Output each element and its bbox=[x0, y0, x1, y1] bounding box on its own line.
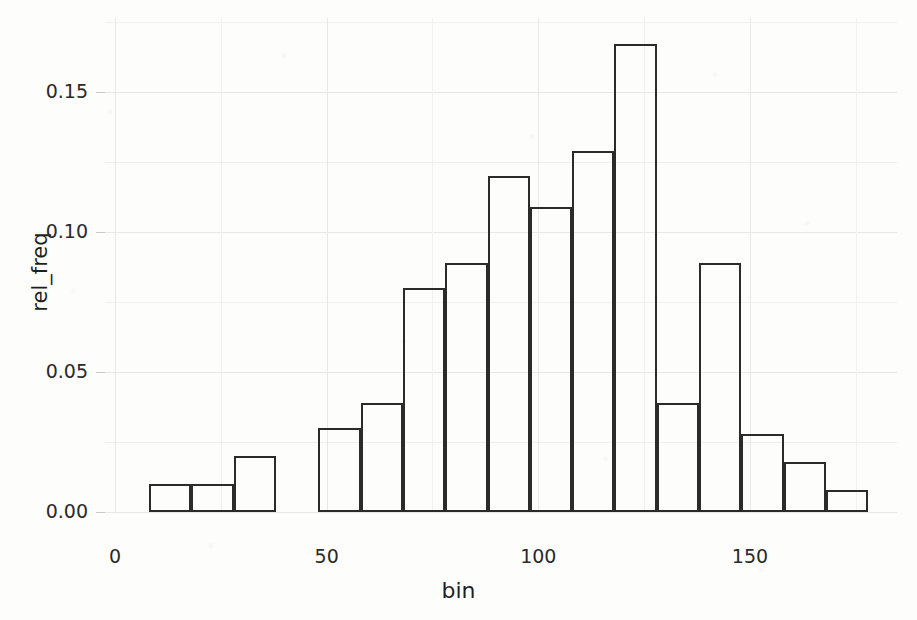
histogram-bar bbox=[530, 207, 572, 512]
histogram-bar bbox=[149, 484, 191, 512]
histogram-bar bbox=[699, 263, 741, 512]
x-axis-title: bin bbox=[0, 578, 917, 603]
gridline-vertical-minor bbox=[856, 18, 857, 512]
gridline-horizontal-major bbox=[105, 92, 897, 93]
histogram-bar bbox=[488, 176, 530, 512]
histogram-bar bbox=[657, 403, 699, 512]
histogram-bar bbox=[403, 288, 445, 512]
histogram-bar bbox=[361, 403, 403, 512]
y-axis-tick-label: 0.05 bbox=[28, 360, 88, 382]
gridline-vertical-major bbox=[115, 18, 116, 512]
histogram-bar bbox=[318, 428, 360, 512]
histogram-chart: rel_freq bin 0.000.050.100.15050100150 bbox=[0, 0, 917, 620]
y-axis-tick-label: 0.15 bbox=[28, 80, 88, 102]
y-axis-tick-mark bbox=[96, 512, 105, 513]
histogram-bar bbox=[445, 263, 487, 512]
y-axis-tick-mark bbox=[96, 92, 105, 93]
y-axis-tick-label: 0.00 bbox=[28, 500, 88, 522]
x-axis-tick-label: 0 bbox=[75, 545, 155, 567]
histogram-bar bbox=[826, 490, 868, 512]
x-axis-tick-label: 50 bbox=[287, 545, 367, 567]
y-axis-tick-mark bbox=[96, 372, 105, 373]
gridline-vertical-minor bbox=[221, 18, 222, 512]
gridline-horizontal-minor bbox=[105, 22, 897, 23]
y-axis-tick-label: 0.10 bbox=[28, 220, 88, 242]
histogram-bar bbox=[234, 456, 276, 512]
y-axis-tick-mark bbox=[96, 232, 105, 233]
histogram-bar bbox=[191, 484, 233, 512]
histogram-bar bbox=[572, 151, 614, 512]
gridline-horizontal-major bbox=[105, 512, 897, 513]
x-axis-tick-label: 150 bbox=[710, 545, 790, 567]
plot-area bbox=[105, 18, 897, 512]
x-axis-tick-label: 100 bbox=[498, 545, 578, 567]
histogram-bar bbox=[614, 44, 656, 512]
gridline-horizontal-minor bbox=[105, 162, 897, 163]
histogram-bar bbox=[741, 434, 783, 512]
histogram-bar bbox=[784, 462, 826, 512]
